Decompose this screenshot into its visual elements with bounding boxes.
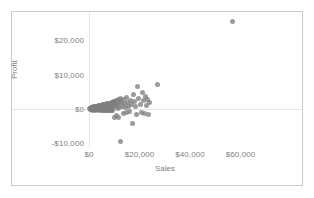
y-tick-label: -$10,000: [20, 139, 84, 148]
data-point: [135, 84, 140, 89]
data-point: [130, 121, 135, 126]
data-point: [155, 82, 160, 87]
x-tick-label: $60,000: [226, 150, 256, 159]
data-point: [147, 100, 152, 105]
x-tick-label: $40,000: [175, 150, 205, 159]
x-axis-title: Sales: [155, 164, 175, 173]
y-tick-label: $0: [20, 105, 84, 114]
y-axis-title: Profit: [10, 60, 19, 79]
scatter-plot: -$10,000$0$10,000$20,000$0$20,000$40,000…: [0, 0, 314, 198]
x-tick-label: $20,000: [125, 150, 155, 159]
y-tick-label: $10,000: [20, 70, 84, 79]
y-tick-label: $20,000: [20, 36, 84, 45]
x-tick-label: $0: [84, 150, 93, 159]
data-point: [116, 115, 121, 120]
data-point: [230, 19, 235, 24]
gridline-vertical: [89, 12, 90, 147]
data-point: [118, 139, 123, 144]
data-point: [146, 112, 151, 117]
data-point: [127, 109, 132, 114]
